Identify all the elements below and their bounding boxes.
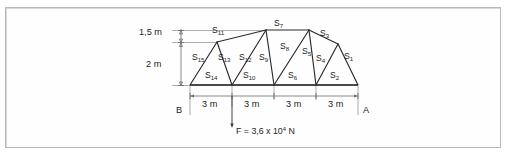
hdim-label-segment-4: 3 m: [328, 99, 344, 109]
dimension-label-2m: 2 m: [146, 59, 162, 69]
label-S8: S8: [280, 41, 290, 52]
label-S11: S11: [212, 25, 225, 36]
member-S13: [217, 42, 232, 85]
label-S13: S13: [218, 52, 231, 63]
label-S12: S12: [239, 52, 252, 63]
member-S11: [217, 30, 266, 42]
hdim-label-segment-3: 3 m: [286, 99, 302, 109]
hdim-arrow-left: [190, 95, 194, 98]
label-S7: S7: [274, 18, 284, 29]
label-S15: S15: [192, 52, 205, 63]
force-arrow-head: [230, 124, 233, 129]
label-S1: S1: [344, 51, 354, 62]
label-S14: S14: [205, 70, 218, 81]
label-S9: S9: [259, 52, 269, 63]
dimension-label-1-5m: 1,5 m: [139, 27, 162, 37]
hdim-label-segment-2: 3 m: [244, 99, 260, 109]
support-label-B: B: [176, 105, 182, 115]
figure-page: 1,5 m 2 m: [0, 0, 507, 154]
member-S5: [309, 30, 316, 85]
label-S4: S4: [316, 53, 326, 64]
label-S6: S6: [288, 70, 298, 81]
label-S3: S3: [320, 28, 330, 39]
support-label-A: A: [363, 105, 370, 115]
hdim-label-segment-1: 3 m: [202, 99, 218, 109]
label-S5: S5: [302, 46, 312, 57]
load-force-label: F = 3,6 x 104 N: [236, 126, 295, 136]
label-S2: S2: [330, 70, 340, 81]
member-labels-group: S11 S7 S3 S15 S13 S12 S9 S8 S5 S4 S1 S14: [192, 18, 354, 81]
load-force-group: [230, 96, 233, 128]
hdim-arrow-right: [354, 95, 358, 98]
truss-diagram-svg: 1,5 m 2 m: [0, 0, 507, 154]
label-S10: S10: [243, 70, 256, 81]
